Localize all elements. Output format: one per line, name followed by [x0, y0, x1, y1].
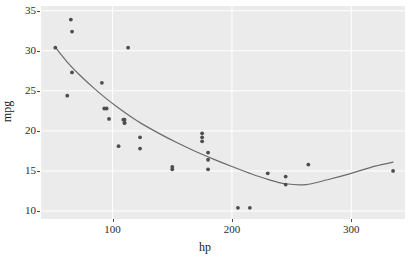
data-point: [206, 151, 210, 155]
data-point: [266, 171, 270, 175]
x-axis-title: hp: [0, 240, 410, 255]
data-point: [170, 167, 174, 171]
y-tick-mark: [37, 51, 40, 52]
data-point: [126, 46, 130, 50]
y-tick-mark: [37, 131, 40, 132]
data-point: [105, 107, 109, 111]
x-tick-label: 300: [331, 224, 371, 235]
y-tick-mark: [37, 171, 40, 172]
data-point: [391, 169, 395, 173]
gridlines-group: [41, 6, 405, 219]
data-point: [200, 131, 204, 135]
y-tick-label: 35: [6, 5, 36, 16]
x-tick-mark: [351, 219, 352, 222]
y-tick-mark: [37, 91, 40, 92]
data-point: [306, 163, 310, 167]
data-point: [200, 135, 204, 139]
data-point: [107, 117, 111, 121]
data-point: [248, 206, 252, 210]
scatter-plot-figure: 101520253035 100200300 hp mpg: [0, 0, 410, 262]
plot-canvas: [41, 6, 405, 219]
data-point: [70, 30, 74, 34]
data-points-group: [53, 18, 395, 210]
x-tick-mark: [232, 219, 233, 222]
data-point: [69, 18, 73, 22]
data-point: [206, 158, 210, 162]
data-point: [138, 135, 142, 139]
y-tick-mark: [37, 211, 40, 212]
data-point: [138, 147, 142, 151]
x-tick-label: 100: [93, 224, 133, 235]
data-point: [65, 94, 69, 98]
smooth-fit-line: [55, 47, 393, 185]
data-point: [284, 175, 288, 179]
data-point: [117, 144, 121, 148]
data-point: [284, 183, 288, 187]
y-tick-label: 30: [6, 45, 36, 56]
x-tick-mark: [113, 219, 114, 222]
data-point: [236, 206, 240, 210]
plot-panel: [41, 6, 405, 219]
y-tick-label: 10: [6, 205, 36, 216]
data-point: [121, 118, 125, 122]
data-point: [206, 167, 210, 171]
data-point: [70, 71, 74, 75]
y-tick-mark: [37, 11, 40, 12]
y-axis-title: mpg: [0, 92, 15, 132]
data-point: [100, 81, 104, 85]
x-tick-label: 200: [212, 224, 252, 235]
data-point: [200, 139, 204, 143]
y-tick-label: 15: [6, 165, 36, 176]
data-point: [53, 46, 57, 50]
